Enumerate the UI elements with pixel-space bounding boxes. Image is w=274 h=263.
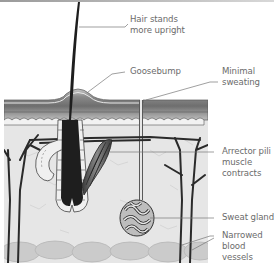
- skin-diagram: [0, 0, 274, 263]
- label-arrector-pili: Arrector pili muscle contracts: [222, 146, 271, 179]
- label-minimal-sweating: Minimal sweating: [222, 66, 260, 88]
- label-goosebump: Goosebump: [130, 66, 181, 77]
- label-narrowed-vessels: Narrowed blood vessels: [222, 230, 263, 263]
- epidermis: [4, 89, 208, 120]
- sweat-gland-coil: [120, 200, 154, 236]
- label-sweat-gland: Sweat gland: [222, 212, 274, 223]
- label-hair-upright: Hair stands more upright: [130, 14, 185, 36]
- skin-block: [0, 89, 216, 263]
